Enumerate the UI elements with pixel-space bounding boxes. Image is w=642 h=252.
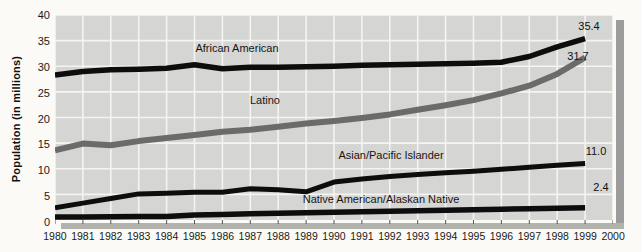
x-tick-1982: 1982	[97, 229, 125, 243]
x-tick-1987: 1987	[236, 229, 264, 243]
end-value-african-american: 35.4	[569, 20, 609, 32]
y-axis-tick-labels: 40 35 30 25 20 15 10 5 0	[0, 8, 50, 229]
series-label-african-american: African American	[177, 42, 297, 54]
x-tick-1984: 1984	[153, 229, 181, 243]
series-label-latino: Latino	[235, 94, 295, 106]
y-tick-5: 5	[0, 189, 50, 203]
x-tick-1986: 1986	[208, 229, 236, 243]
population-line-chart: Population (in millions) 40 35 30 25 20 …	[0, 0, 642, 252]
y-tick-40: 40	[0, 8, 50, 22]
y-tick-15: 15	[0, 137, 50, 151]
x-tick-1997: 1997	[515, 229, 543, 243]
series-label-native-american-alaskan-native: Native American/Alaskan Native	[293, 193, 469, 205]
x-tick-1992: 1992	[376, 229, 404, 243]
end-value-latino: 31.7	[558, 50, 598, 62]
x-tick-1989: 1989	[292, 229, 320, 243]
y-tick-25: 25	[0, 86, 50, 100]
x-tick-1981: 1981	[69, 229, 97, 243]
x-tick-1994: 1994	[432, 229, 460, 243]
x-tick-1990: 1990	[320, 229, 348, 243]
y-tick-20: 20	[0, 112, 50, 126]
y-tick-10: 10	[0, 163, 50, 177]
x-tick-1985: 1985	[181, 229, 209, 243]
y-tick-0: 0	[0, 215, 50, 229]
y-tick-30: 30	[0, 60, 50, 74]
plot-drop-shadow-right	[616, 20, 624, 228]
y-tick-35: 35	[0, 34, 50, 48]
x-tick-2000: 2000	[599, 229, 627, 243]
x-tick-1998: 1998	[543, 229, 571, 243]
x-tick-1991: 1991	[348, 229, 376, 243]
end-value-asian-pacific-islander: 11.0	[576, 145, 616, 157]
x-tick-1999: 1999	[571, 229, 599, 243]
x-tick-1996: 1996	[488, 229, 516, 243]
x-tick-1995: 1995	[460, 229, 488, 243]
end-value-native-american-alaskan-native: 2.4	[581, 181, 621, 193]
x-tick-1993: 1993	[404, 229, 432, 243]
x-tick-1983: 1983	[125, 229, 153, 243]
x-tick-1980: 1980	[41, 229, 69, 243]
series-label-asian-pacific-islander: Asian/Pacific Islander	[320, 149, 462, 161]
x-tick-1988: 1988	[264, 229, 292, 243]
x-axis-tick-labels: 1980 1981 1982 1983 1984 1985 1986 1987 …	[41, 229, 627, 243]
